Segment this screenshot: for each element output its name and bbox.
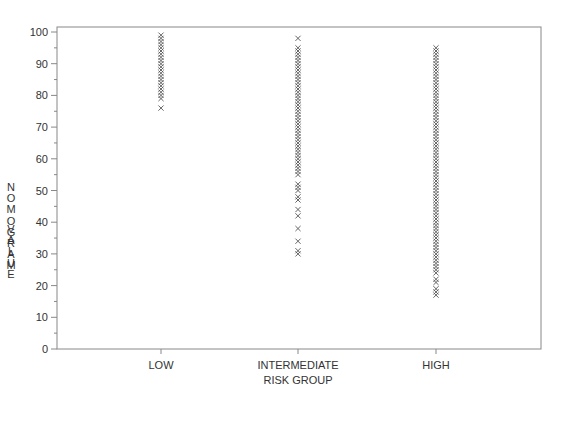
y-title-letter: V bbox=[7, 223, 15, 235]
y-title-letter: A bbox=[7, 234, 15, 246]
x-marker bbox=[295, 188, 300, 193]
y-tick-label: 0 bbox=[42, 343, 48, 355]
x-marker bbox=[433, 293, 438, 298]
y-title-letter: L bbox=[8, 245, 14, 257]
x-marker bbox=[295, 239, 300, 244]
y-tick-label: 10 bbox=[36, 311, 48, 323]
x-marker bbox=[295, 36, 300, 41]
y-tick-label: 20 bbox=[36, 280, 48, 292]
x-marker bbox=[433, 270, 438, 275]
x-marker bbox=[295, 172, 300, 177]
x-tick-label: INTERMEDIATE bbox=[257, 359, 338, 371]
x-marker bbox=[295, 226, 300, 231]
y-tick-label: 70 bbox=[36, 121, 48, 133]
x-marker bbox=[158, 96, 163, 101]
y-tick-label: 90 bbox=[36, 58, 48, 70]
x-marker bbox=[295, 207, 300, 212]
y-tick-label: 100 bbox=[30, 26, 48, 38]
y-title-letter: O bbox=[7, 192, 16, 204]
data-points bbox=[158, 33, 438, 298]
x-marker bbox=[433, 280, 438, 285]
y-title-letter: M bbox=[6, 203, 15, 215]
x-tick-label: LOW bbox=[148, 359, 174, 371]
x-marker bbox=[295, 197, 300, 202]
x-marker bbox=[295, 213, 300, 218]
y-title-letter: E bbox=[7, 268, 14, 280]
x-marker bbox=[158, 105, 163, 110]
y-tick-label: 50 bbox=[36, 185, 48, 197]
x-axis: LOWINTERMEDIATEHIGH bbox=[148, 349, 449, 371]
y-title-letter: U bbox=[7, 257, 15, 269]
y-axis: 0102030405060708090100 bbox=[30, 26, 57, 355]
y-tick-label: 40 bbox=[36, 216, 48, 228]
y-title-letter: N bbox=[7, 181, 15, 193]
y-tick-label: 30 bbox=[36, 248, 48, 260]
x-tick-label: HIGH bbox=[422, 359, 450, 371]
x-axis-title: RISK GROUP bbox=[263, 374, 332, 386]
x-marker bbox=[295, 251, 300, 256]
y-tick-label: 60 bbox=[36, 153, 48, 165]
y-axis-title: NOMOGRAMVALUE bbox=[6, 181, 15, 280]
y-tick-label: 80 bbox=[36, 89, 48, 101]
scatter-chart: 0102030405060708090100 LOWINTERMEDIATEHI… bbox=[0, 0, 564, 430]
